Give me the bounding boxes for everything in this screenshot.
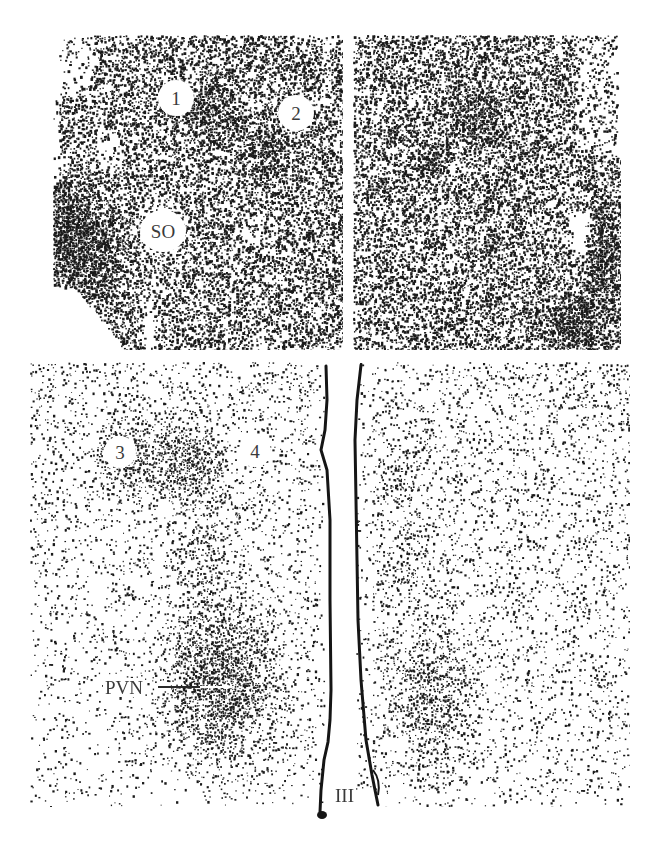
label-text: 4 [250, 442, 260, 461]
micrograph-bottom [30, 362, 630, 807]
figure: 1 2 SO 3 4 PVN III [0, 0, 653, 847]
pvn-leader-line [158, 686, 200, 688]
pvn-label: PVN [103, 678, 145, 697]
third-ventricle-label: III [335, 786, 354, 805]
nucleus-label-1: 1 [158, 80, 194, 116]
label-text: 1 [171, 89, 181, 108]
micrograph-top-left [53, 35, 343, 350]
pvn-leader-line-inner [200, 686, 232, 688]
label-text: 3 [115, 443, 125, 462]
micrograph-top-right [353, 35, 621, 350]
nucleus-label-2: 2 [278, 95, 314, 131]
nucleus-label-3: 3 [104, 436, 136, 468]
stipple-texture [30, 362, 630, 807]
nucleus-label-so: SO [140, 210, 186, 252]
label-text: 2 [291, 104, 301, 123]
stipple-texture [353, 35, 621, 350]
nucleus-label-4: 4 [239, 435, 271, 467]
label-text: SO [151, 222, 175, 241]
stipple-texture [53, 35, 343, 350]
